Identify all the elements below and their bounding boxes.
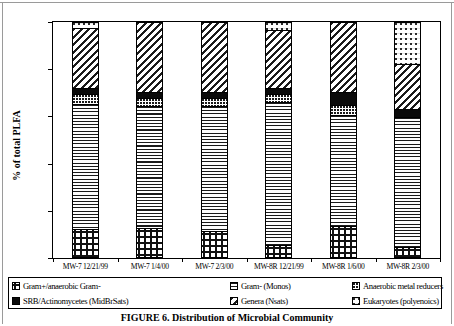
bar-segment[interactable] <box>395 247 420 257</box>
checkerboard-icon <box>12 282 20 290</box>
stacked-bar[interactable] <box>330 22 357 258</box>
bar-segment[interactable] <box>331 115 356 226</box>
bar-segment[interactable] <box>137 228 162 257</box>
sparse-dots-icon <box>352 297 360 305</box>
legend-label: Gram- (Monos) <box>241 281 291 291</box>
figure-caption: FIGURE 6. Distribution of Microbial Comm… <box>0 312 454 323</box>
y-tick-mark <box>48 164 52 165</box>
bar-segment[interactable] <box>202 23 227 92</box>
bar-segment[interactable] <box>202 231 227 257</box>
solid-black-icon <box>12 297 20 305</box>
bar-segment[interactable] <box>395 109 420 117</box>
bar-segment[interactable] <box>73 94 98 104</box>
bar-segment[interactable] <box>73 104 98 229</box>
y-tick-mark <box>48 258 52 259</box>
y-tick-mark <box>48 211 52 212</box>
legend-item[interactable]: Gram- (Monos) <box>230 281 291 291</box>
figure-container: % of total PLFA 0%20%40%60%80%100% MW-7 … <box>0 0 454 326</box>
legend-item[interactable]: Genera (Nsats) <box>230 296 288 306</box>
bar-segment[interactable] <box>266 94 291 102</box>
fine-dots-icon <box>352 282 360 290</box>
bar-segment[interactable] <box>73 28 98 89</box>
plot-frame-right <box>440 21 441 259</box>
bar-segment[interactable] <box>266 102 291 245</box>
bar-segment[interactable] <box>331 105 356 115</box>
plot-area <box>53 22 440 258</box>
bar-segment[interactable] <box>202 98 227 106</box>
bar-segment[interactable] <box>137 23 162 92</box>
horizontal-lines-icon <box>230 282 238 290</box>
legend-label: Eukaryotes (polyenoics) <box>363 296 439 306</box>
legend-label: Anaerobic metal reducers <box>363 281 443 291</box>
bar-segment[interactable] <box>266 30 291 88</box>
page-border-right <box>451 2 452 324</box>
bar-segment[interactable] <box>395 64 420 109</box>
stacked-bar[interactable] <box>201 22 228 258</box>
y-tick-mark <box>48 22 52 23</box>
bar-segment[interactable] <box>331 23 356 92</box>
page-border-top <box>0 2 454 3</box>
chart-legend: Gram+/anaerobic Gram-Gram- (Monos)Anaero… <box>8 277 442 309</box>
bar-segment[interactable] <box>331 226 356 257</box>
y-axis-title: % of total PLFA <box>11 86 22 206</box>
page-border-left <box>2 2 3 324</box>
stacked-bar[interactable] <box>72 22 99 258</box>
bar-segment[interactable] <box>266 245 291 257</box>
bar-segment[interactable] <box>395 117 420 247</box>
stacked-bar[interactable] <box>394 22 421 258</box>
legend-item[interactable]: SRB/Actinomycetes (MidBrSats) <box>12 296 230 306</box>
legend-item[interactable]: Anaerobic metal reducers <box>352 281 443 291</box>
bar-segment[interactable] <box>395 23 420 64</box>
legend-item[interactable]: Gram+/anaerobic Gram- <box>12 281 230 291</box>
legend-label: Genera (Nsats) <box>241 296 288 306</box>
legend-label: Gram+/anaerobic Gram- <box>23 281 100 291</box>
x-tick-label: MW-8R 2/3/00 <box>365 262 451 271</box>
legend-label: SRB/Actinomycetes (MidBrSats) <box>23 296 128 306</box>
diagonal-hatch-icon <box>230 297 238 305</box>
stacked-bar[interactable] <box>136 22 163 258</box>
legend-item[interactable]: Eukaryotes (polyenoics) <box>352 296 439 306</box>
bar-segment[interactable] <box>331 92 356 105</box>
y-tick-mark <box>48 69 52 70</box>
bar-segment[interactable] <box>137 106 162 229</box>
y-tick-mark <box>48 116 52 117</box>
stacked-bar[interactable] <box>265 22 292 258</box>
bar-segment[interactable] <box>266 23 291 30</box>
bar-segment[interactable] <box>73 229 98 257</box>
bar-segment[interactable] <box>202 106 227 231</box>
bar-segment[interactable] <box>137 98 162 106</box>
